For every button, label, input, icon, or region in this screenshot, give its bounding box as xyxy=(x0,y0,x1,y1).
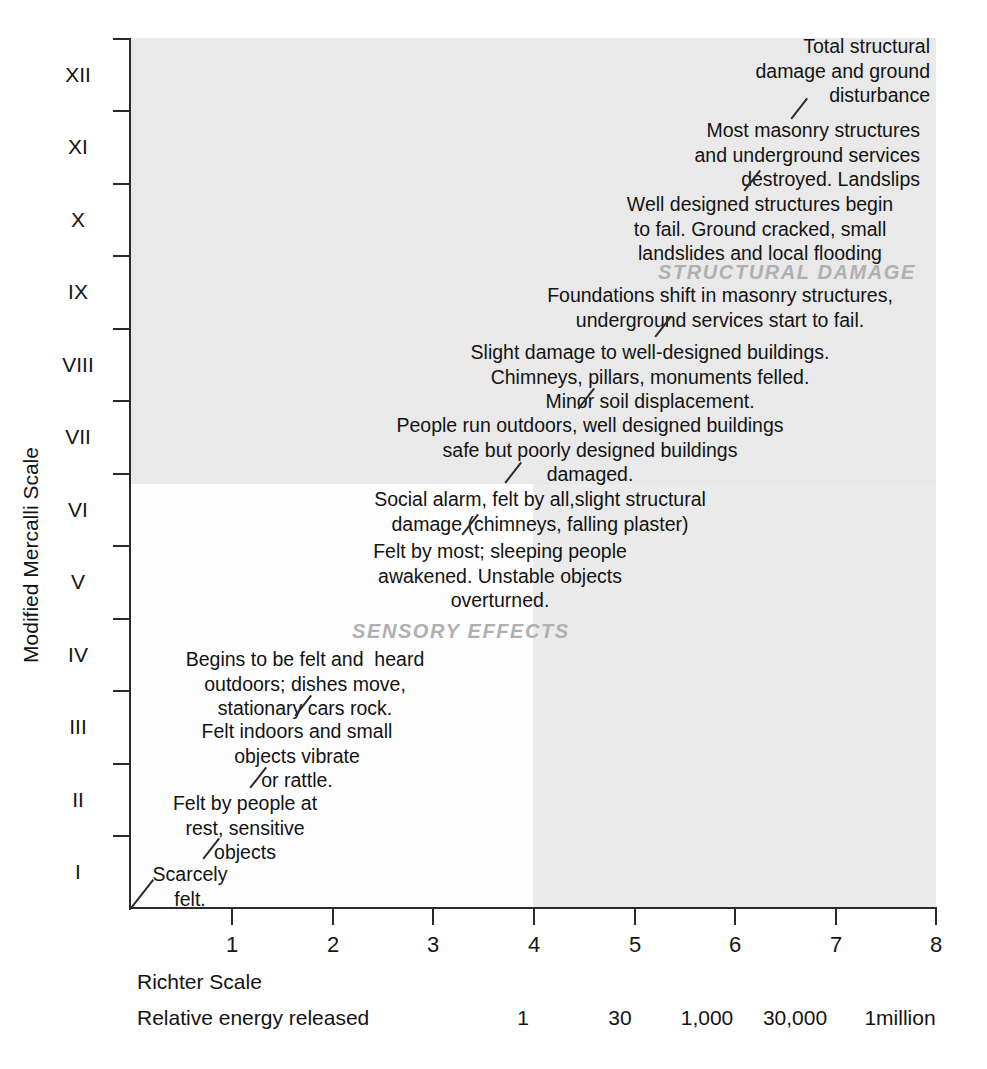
y-label-x: X xyxy=(48,209,108,230)
y-label-xi: XI xyxy=(48,136,108,157)
section-label-structural-damage: STRUCTURAL DAMAGE xyxy=(658,262,916,282)
energy-row-label: Relative energy released xyxy=(137,1006,369,1030)
y-tick-top xyxy=(113,38,130,40)
x-label-6: 6 xyxy=(705,934,765,956)
y-tick-v-iv xyxy=(113,618,130,620)
x-tick-8 xyxy=(935,908,937,925)
energy-value-30000: 30,000 xyxy=(735,1006,855,1030)
annotation-mercalli-iii: Felt indoors and small objects vibrate o… xyxy=(152,719,442,793)
x-tick-5 xyxy=(634,908,636,925)
y-label-ix: IX xyxy=(48,281,108,302)
y-tick-xi-x xyxy=(113,183,130,185)
y-tick-iv-iii xyxy=(113,690,130,692)
x-label-7: 7 xyxy=(806,934,866,956)
y-tick-xii-xi xyxy=(113,110,130,112)
x-tick-7 xyxy=(835,908,837,925)
earthquake-scale-chart: XII XI X IX VIII VII VI V IV III II I 1 … xyxy=(0,0,987,1069)
y-label-viii: VIII xyxy=(48,354,108,375)
x-label-8: 8 xyxy=(906,934,966,956)
x-tick-6 xyxy=(734,908,736,925)
y-tick-vi-v xyxy=(113,545,130,547)
x-tick-4 xyxy=(533,908,535,925)
y-label-i: I xyxy=(48,861,108,882)
y-tick-vii-vi xyxy=(113,473,130,475)
y-tick-ix-viii xyxy=(113,328,130,330)
y-label-vi: VI xyxy=(48,499,108,520)
y-tick-viii-vii xyxy=(113,400,130,402)
annotation-mercalli-viii: Slight damage to well-designed buildings… xyxy=(440,340,860,414)
annotation-mercalli-ii: Felt by people at rest, sensitive object… xyxy=(130,791,360,865)
annotation-mercalli-ix: Foundations shift in masonry structures,… xyxy=(520,283,920,332)
y-label-xii: XII xyxy=(48,64,108,85)
energy-value-1million: 1million xyxy=(840,1006,960,1030)
section-label-sensory-effects: SENSORY EFFECTS xyxy=(352,621,570,641)
annotation-mercalli-v: Felt by most; sleeping people awakened. … xyxy=(340,539,660,613)
y-axis-title: Modified Mercalli Scale xyxy=(19,395,43,715)
annotation-mercalli-iv: Begins to be felt and heard outdoors; di… xyxy=(140,647,470,721)
x-label-4: 4 xyxy=(504,934,564,956)
x-tick-3 xyxy=(432,908,434,925)
annotation-mercalli-vi: Social alarm, felt by all,slight structu… xyxy=(340,487,740,536)
annotation-mercalli-x: Well designed structures begin to fail. … xyxy=(600,192,920,266)
annotation-mercalli-xi: Most masonry structures and underground … xyxy=(620,118,920,192)
x-axis-title: Richter Scale xyxy=(137,970,262,994)
y-tick-x-ix xyxy=(113,255,130,257)
x-label-1: 1 xyxy=(202,934,262,956)
annotation-mercalli-vii: People run outdoors, well designed build… xyxy=(380,413,800,487)
y-tick-ii-i xyxy=(113,835,130,837)
y-label-ii: II xyxy=(48,789,108,810)
y-label-iii: III xyxy=(48,716,108,737)
x-label-2: 2 xyxy=(303,934,363,956)
x-tick-2 xyxy=(332,908,334,925)
y-label-v: V xyxy=(48,571,108,592)
x-label-3: 3 xyxy=(403,934,463,956)
y-label-iv: IV xyxy=(48,644,108,665)
y-tick-iii-ii xyxy=(113,763,130,765)
annotation-mercalli-xii: Total structural damage and ground distu… xyxy=(640,34,930,108)
y-label-vii: VII xyxy=(48,426,108,447)
x-label-5: 5 xyxy=(605,934,665,956)
